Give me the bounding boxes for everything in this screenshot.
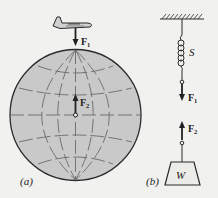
panel-a: F2 F1 (a) <box>10 17 141 188</box>
force-f1-arrow-b <box>179 84 185 101</box>
force-f1-label-a: F1 <box>81 36 90 48</box>
earth-globe <box>10 50 141 181</box>
action-reaction-diagram: F2 F1 (a) <box>0 0 218 198</box>
spring-label: S <box>189 46 195 58</box>
panel-b: S F1 F2 W (b) <box>146 14 204 188</box>
panel-a-label: (a) <box>20 175 33 188</box>
weight-label: W <box>176 169 186 181</box>
force-f1-arrow-a <box>73 28 79 46</box>
force-f2-arrow-b <box>179 121 185 140</box>
force-f1-label-b: F1 <box>188 92 197 104</box>
panel-b-label: (b) <box>146 175 159 188</box>
spring <box>178 19 184 84</box>
ceiling <box>160 14 204 19</box>
force-f2-label-b: F2 <box>188 123 197 135</box>
weight-hook <box>180 141 184 162</box>
airplane-icon <box>53 17 92 29</box>
